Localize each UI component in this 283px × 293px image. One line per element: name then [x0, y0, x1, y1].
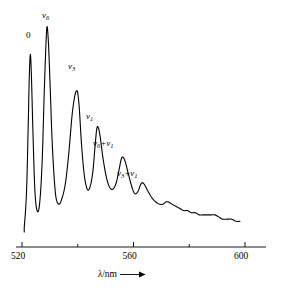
- peak-label-nu3-plus-nu1: ν3+ν1: [117, 169, 138, 178]
- axis-unit: /nm: [102, 269, 117, 279]
- peak-label-nu3: ν3: [68, 62, 75, 71]
- spectrum-figure: 0 ν6 ν3 ν1 ν6+ν1 ν3+ν1 520 560 600 λ/nm: [0, 0, 283, 293]
- peak-label-nu6: ν6: [42, 11, 49, 20]
- x-axis-title: λ/nm: [98, 270, 146, 280]
- tick-label-600: 600: [234, 252, 248, 262]
- right-arrow-icon: [120, 270, 146, 279]
- spectrum-plot-svg: [0, 0, 283, 293]
- peak-label-nu6-plus-nu1: ν6+ν1: [93, 139, 114, 148]
- tick-label-520: 520: [11, 252, 25, 262]
- peak-label-origin: 0: [26, 31, 31, 40]
- spectrum-curve: [24, 27, 240, 232]
- tick-label-560: 560: [123, 252, 137, 262]
- peak-label-nu1: ν1: [86, 112, 93, 121]
- x-axis-ticks: [22, 242, 245, 247]
